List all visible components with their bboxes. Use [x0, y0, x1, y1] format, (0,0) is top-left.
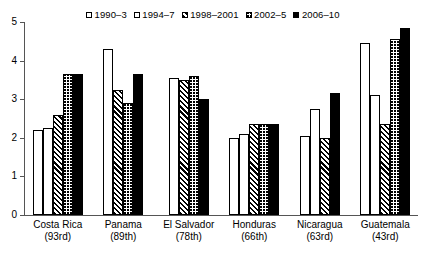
category-name: Guatemala	[361, 219, 410, 230]
bar	[169, 78, 179, 215]
bar	[43, 128, 53, 215]
bar	[380, 124, 390, 215]
bars	[353, 22, 419, 215]
category-rank: (63rd)	[287, 231, 353, 243]
y-axis-tick-label: 2	[0, 133, 17, 143]
y-axis-tick-label: 3	[0, 94, 17, 104]
bar	[199, 99, 209, 215]
category-name: Honduras	[233, 219, 276, 230]
bar	[123, 103, 133, 215]
legend-item: 2006–10	[293, 9, 339, 20]
bar-group	[91, 22, 157, 215]
bar-chart: 1990–31994–71998–20012002–52006–10 01234…	[0, 0, 425, 257]
legend-item: 1994–7	[134, 9, 175, 20]
bar	[229, 138, 239, 215]
bar-group	[156, 22, 222, 215]
legend-label: 2002–5	[254, 9, 286, 20]
bar	[103, 49, 113, 215]
y-axis-tick-label: 1	[0, 171, 17, 181]
bar	[330, 93, 340, 215]
bars	[91, 22, 157, 215]
bar-group	[353, 22, 419, 215]
category-label: Guatemala(43rd)	[353, 219, 419, 243]
bar	[189, 76, 199, 215]
bar	[259, 124, 269, 215]
bars	[222, 22, 288, 215]
white-swatch-icon	[86, 12, 92, 18]
y-axis-tick-label: 0	[0, 210, 17, 220]
bar	[73, 74, 83, 215]
legend-item: 2002–5	[246, 9, 287, 20]
legend-label: 2006–10	[302, 9, 340, 20]
y-axis-tick-label: 4	[0, 56, 17, 66]
dotted-swatch-icon	[134, 12, 140, 18]
category-rank: (78th)	[156, 231, 222, 243]
bar	[239, 134, 249, 215]
y-axis-tick	[20, 215, 25, 216]
bar	[53, 115, 63, 215]
bar-group	[222, 22, 288, 215]
category-labels: Costa Rica(93rd)Panama(89th)El Salvador(…	[25, 219, 418, 243]
bar	[269, 124, 279, 215]
category-label: Honduras(66th)	[222, 219, 288, 243]
category-name: Costa Rica	[33, 219, 82, 230]
bar-group	[287, 22, 353, 215]
category-name: Nicaragua	[297, 219, 343, 230]
bar	[113, 90, 123, 215]
bar-groups	[25, 22, 418, 215]
bar	[300, 136, 310, 215]
black-swatch-icon	[293, 12, 299, 18]
grid-swatch-icon	[246, 12, 252, 18]
legend-label: 1994–7	[142, 9, 174, 20]
bars	[25, 22, 91, 215]
diagonal-swatch-icon	[182, 12, 188, 18]
bar	[360, 43, 370, 215]
bar	[320, 138, 330, 215]
bar	[63, 74, 73, 215]
bar	[249, 124, 259, 215]
category-rank: (66th)	[222, 231, 288, 243]
category-name: Panama	[105, 219, 142, 230]
bar	[179, 80, 189, 215]
y-axis-tick-label: 5	[0, 17, 17, 27]
legend-item: 1990–3	[86, 9, 127, 20]
bar-group	[25, 22, 91, 215]
bar	[33, 130, 43, 215]
chart-legend: 1990–31994–71998–20012002–52006–10	[86, 9, 340, 20]
category-label: Nicaragua(63rd)	[287, 219, 353, 243]
legend-label: 1998–2001	[190, 9, 238, 20]
category-label: Panama(89th)	[91, 219, 157, 243]
category-label: El Salvador(78th)	[156, 219, 222, 243]
bars	[287, 22, 353, 215]
bar	[400, 28, 410, 215]
category-label: Costa Rica(93rd)	[25, 219, 91, 243]
bar	[310, 109, 320, 215]
legend-item: 1998–2001	[182, 9, 239, 20]
bar	[133, 74, 143, 215]
category-rank: (43rd)	[353, 231, 419, 243]
bars	[156, 22, 222, 215]
bar	[390, 39, 400, 215]
category-rank: (89th)	[91, 231, 157, 243]
legend-label: 1990–3	[95, 9, 127, 20]
x-axis-line	[24, 215, 418, 216]
category-name: El Salvador	[163, 219, 214, 230]
bar	[370, 95, 380, 215]
category-rank: (93rd)	[25, 231, 91, 243]
